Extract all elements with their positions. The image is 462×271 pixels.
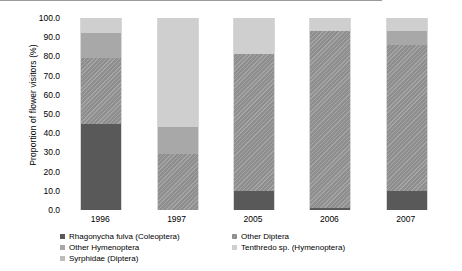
- bar-segment[interactable]: [81, 124, 121, 210]
- bar-1996[interactable]: [80, 18, 122, 210]
- y-axis-tick-label: 20.0: [43, 167, 60, 176]
- legend-item[interactable]: Other Hymenoptera: [60, 242, 180, 252]
- bar-2005[interactable]: [233, 18, 275, 210]
- bar-segment[interactable]: [158, 127, 198, 154]
- bar-segment[interactable]: [234, 54, 274, 190]
- y-axis-tick-label: 40.0: [43, 129, 60, 138]
- bar-segment[interactable]: [310, 31, 350, 208]
- bar-segment[interactable]: [387, 191, 427, 210]
- legend-label: Syrphidae (Diptera): [69, 254, 138, 263]
- y-axis-tick-label: 30.0: [43, 148, 60, 157]
- bar-segment[interactable]: [158, 154, 198, 210]
- bar-segment[interactable]: [387, 31, 427, 44]
- y-axis-tick-label: 50.0: [43, 110, 60, 119]
- legend-swatch-icon: [60, 234, 65, 239]
- bar-segment[interactable]: [234, 191, 274, 210]
- legend-label: Rhagonycha fulva (Coleoptera): [69, 232, 180, 241]
- bar-1997[interactable]: [157, 18, 199, 210]
- bar-segment[interactable]: [387, 45, 427, 191]
- y-axis-tick-label: 60.0: [43, 91, 60, 100]
- legend-item[interactable]: Other Diptera: [232, 231, 345, 241]
- x-axis-tick-label: 1997: [137, 214, 217, 224]
- bar-segment[interactable]: [310, 208, 350, 210]
- bar-segment[interactable]: [81, 33, 121, 58]
- stacked-bar-chart: Proportion of flower visitors (%) 0.010.…: [0, 0, 462, 271]
- legend-column-1: Rhagonycha fulva (Coleoptera)Other Hymen…: [60, 231, 180, 264]
- bar-segment[interactable]: [234, 18, 274, 54]
- legend-swatch-icon: [232, 234, 237, 239]
- x-axis-tick-label: 1996: [60, 214, 140, 224]
- bar-segment[interactable]: [81, 58, 121, 123]
- y-axis-tick-label: 10.0: [43, 187, 60, 196]
- legend-label: Other Hymenoptera: [69, 243, 139, 252]
- legend-swatch-icon: [232, 245, 237, 250]
- y-axis-tick-label: 70.0: [43, 71, 60, 80]
- x-axis-tick-label: 2006: [289, 214, 369, 224]
- bar-segment[interactable]: [387, 18, 427, 31]
- x-axis-tick-label: 2005: [213, 214, 293, 224]
- legend-item[interactable]: Rhagonycha fulva (Coleoptera): [60, 231, 180, 241]
- y-axis-tick-label: 100.0: [39, 14, 60, 23]
- legend-swatch-icon: [60, 245, 65, 250]
- chart-legend: Rhagonycha fulva (Coleoptera)Other Hymen…: [60, 231, 440, 267]
- legend-label: Tenthredo sp. (Hymenoptera): [241, 243, 345, 252]
- bar-2006[interactable]: [309, 18, 351, 210]
- x-axis-line: [0, 0, 382, 1]
- y-axis-tick-label: 0.0: [48, 206, 60, 215]
- x-axis-tick-label: 2007: [366, 214, 446, 224]
- y-axis-tick-label: 90.0: [43, 33, 60, 42]
- legend-item[interactable]: Syrphidae (Diptera): [60, 253, 180, 263]
- legend-item[interactable]: Tenthredo sp. (Hymenoptera): [232, 242, 345, 252]
- legend-column-2: Other DipteraTenthredo sp. (Hymenoptera): [232, 231, 345, 253]
- legend-label: Other Diptera: [241, 232, 289, 241]
- legend-swatch-icon: [60, 256, 65, 261]
- bar-segment[interactable]: [158, 18, 198, 127]
- y-axis-tick-labels: 0.010.020.030.040.050.060.070.080.090.01…: [26, 12, 60, 216]
- y-axis-tick-label: 80.0: [43, 52, 60, 61]
- bar-2007[interactable]: [386, 18, 428, 210]
- bar-segment[interactable]: [81, 18, 121, 33]
- bar-segment[interactable]: [310, 18, 350, 31]
- plot-area: [62, 18, 444, 210]
